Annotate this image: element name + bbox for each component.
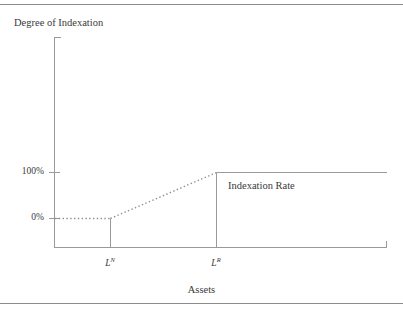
x-tick-label-ln-superscript: N — [110, 256, 114, 263]
series-segment-rising-dotted — [111, 173, 217, 219]
figure-container: Degree of Indexation Assets 100% 0% LN L… — [0, 0, 403, 315]
x-tick-label-ln: LN — [90, 259, 130, 269]
y-tick-label-100: 100% — [0, 167, 44, 177]
x-tick-label-lr-superscript: R — [217, 256, 221, 263]
y-axis-title: Degree of Indexation — [14, 18, 103, 29]
y-tick-label-0: 0% — [0, 213, 44, 223]
x-axis-title: Assets — [0, 285, 403, 296]
x-tick-label-lr: LR — [196, 259, 236, 269]
series-annotation-indexation-rate: Indexation Rate — [228, 181, 295, 192]
